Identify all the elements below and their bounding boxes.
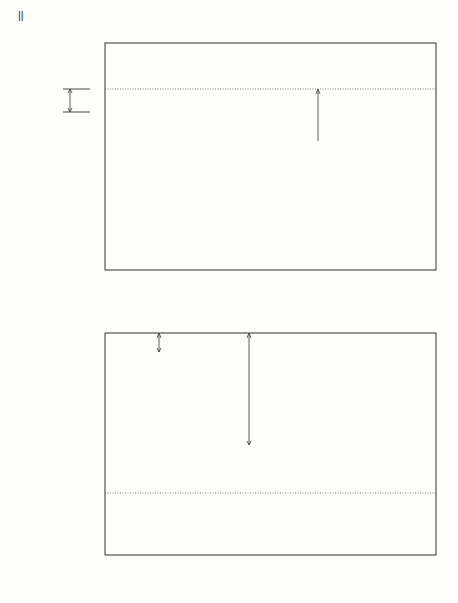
g0-annotation xyxy=(0,0,90,112)
phase-plot-frame xyxy=(105,333,436,555)
bode-plot-figure: || xyxy=(0,0,458,603)
g1-annotation xyxy=(0,0,320,141)
phi1-annotation xyxy=(0,0,251,445)
magnitude-plot: || xyxy=(0,0,436,270)
phi0-annotation xyxy=(0,0,161,352)
phase-plot xyxy=(0,0,436,555)
magnitude-plot-frame xyxy=(105,43,436,270)
magnitude-y-axis-label: || xyxy=(18,9,24,21)
